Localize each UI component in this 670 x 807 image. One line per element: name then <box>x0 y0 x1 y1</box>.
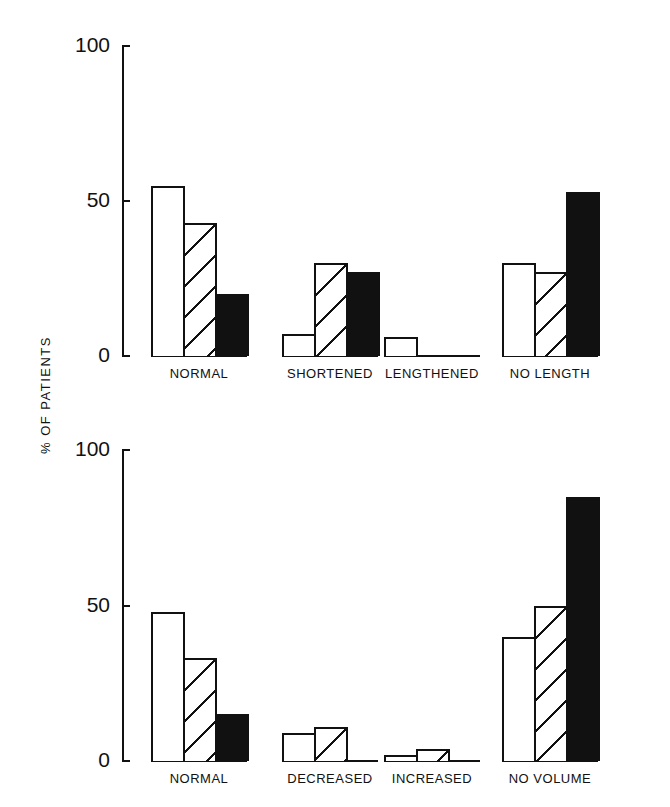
bar-no-volume-hatched <box>534 606 568 762</box>
y-tick <box>122 45 130 47</box>
y-tick <box>122 449 130 451</box>
y-tick <box>122 200 130 202</box>
category-label: NO VOLUME <box>482 771 618 786</box>
bar-increased-hatched <box>416 749 450 761</box>
bar-normal-hatched <box>183 658 217 761</box>
bar-no-length-hatched <box>534 272 568 356</box>
y-tick <box>122 355 130 357</box>
bar-shortened-hatched <box>314 263 348 356</box>
category-label: NORMAL <box>131 771 267 786</box>
y-tick-label: 0 <box>50 343 110 367</box>
bar-decreased-open <box>282 733 316 761</box>
y-tick-label: 100 <box>50 33 110 57</box>
bar-no-volume-open <box>502 637 536 761</box>
y-tick-label: 50 <box>50 593 110 617</box>
bar-normal-open <box>151 612 185 761</box>
bar-no-length-solid <box>566 192 600 356</box>
bar-no-length-open <box>502 263 536 356</box>
category-label: LENGTHENED <box>364 366 500 381</box>
bar-shortened-solid <box>346 272 380 356</box>
bar-normal-open <box>151 186 185 357</box>
bar-lengthened-open <box>384 337 418 356</box>
y-tick <box>122 605 130 607</box>
y-tick-label: 0 <box>50 748 110 772</box>
y-tick-label: 100 <box>50 437 110 461</box>
bar-no-volume-solid <box>566 497 600 761</box>
bar-decreased-hatched <box>314 727 348 761</box>
y-tick <box>122 760 130 762</box>
category-label: NORMAL <box>131 366 267 381</box>
y-tick-label: 50 <box>50 188 110 212</box>
bar-normal-hatched <box>183 223 217 356</box>
bar-shortened-open <box>282 334 316 356</box>
category-label: INCREASED <box>364 771 500 786</box>
bar-normal-solid <box>215 714 249 761</box>
bar-increased-open <box>384 755 418 761</box>
category-label: NO LENGTH <box>482 366 618 381</box>
bar-normal-solid <box>215 294 249 356</box>
